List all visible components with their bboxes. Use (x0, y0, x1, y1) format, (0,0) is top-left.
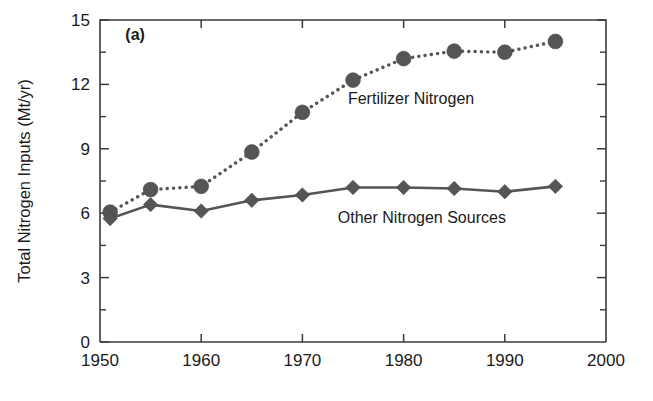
panel-label: (a) (125, 26, 145, 43)
data-point-marker (245, 193, 259, 207)
data-point-marker (194, 179, 209, 194)
data-point-marker (498, 185, 512, 199)
x-tick-label: 1970 (283, 351, 321, 370)
x-tick-label: 1980 (385, 351, 423, 370)
y-tick-label: 9 (81, 140, 90, 159)
x-tick-label: 1990 (486, 351, 524, 370)
data-point-marker (143, 182, 158, 197)
data-point-marker (295, 188, 309, 202)
data-point-marker (295, 105, 310, 120)
data-point-marker (548, 34, 563, 49)
data-point-marker (447, 181, 461, 195)
nitrogen-inputs-line-chart: 03691215195019601970198019902000Total Ni… (0, 0, 653, 401)
series-annotation-label: Other Nitrogen Sources (338, 209, 506, 226)
data-point-marker (346, 73, 361, 88)
y-tick-label: 6 (81, 204, 90, 223)
y-tick-label: 12 (71, 75, 90, 94)
series-annotation-label: Fertilizer Nitrogen (348, 90, 474, 107)
y-tick-label: 0 (81, 333, 90, 352)
data-point-marker (396, 51, 411, 66)
figure-panel-a: 03691215195019601970198019902000Total Ni… (0, 0, 653, 401)
data-point-marker (396, 180, 410, 194)
data-point-marker (447, 44, 462, 59)
y-tick-label: 3 (81, 269, 90, 288)
series-line-0 (110, 41, 555, 212)
data-point-marker (244, 145, 259, 160)
data-point-marker (346, 180, 360, 194)
y-axis-title: Total Nitrogen Inputs (Mt/yr) (15, 79, 33, 283)
y-tick-label: 15 (71, 11, 90, 30)
data-point-marker (497, 45, 512, 60)
x-tick-label: 1960 (182, 351, 220, 370)
data-point-marker (143, 197, 157, 211)
x-tick-label: 1950 (81, 351, 119, 370)
x-tick-label: 2000 (587, 351, 625, 370)
data-point-marker (194, 204, 208, 218)
data-point-marker (548, 179, 562, 193)
